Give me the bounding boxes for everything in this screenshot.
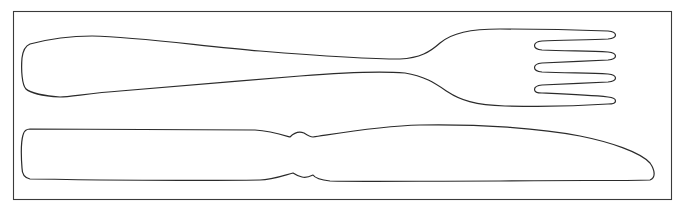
knife-outline — [21, 125, 654, 182]
fork-icon — [22, 29, 616, 106]
knife-icon — [21, 125, 654, 182]
cutlery-drawing — [0, 0, 685, 209]
fork-outline — [22, 29, 616, 106]
cutlery-illustration: Line drawing of a fork (top) and a knife… — [0, 0, 685, 209]
